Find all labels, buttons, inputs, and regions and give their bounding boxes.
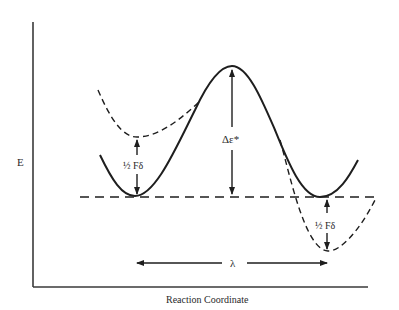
barrier-label: Δε* xyxy=(222,133,239,145)
right-half-f-delta-label: ½ Fδ xyxy=(315,220,336,231)
y-axis-label: E xyxy=(17,156,24,168)
lambda-label: λ xyxy=(230,257,236,269)
adiabatic-surface xyxy=(100,66,358,197)
left-half-f-delta-label: ½ Fδ xyxy=(123,160,144,171)
axes xyxy=(33,22,368,287)
x-axis-label: Reaction Coordinate xyxy=(166,294,249,305)
energy-diagram: E Reaction Coordinate ½ Fδ Δε* ½ Fδ λ xyxy=(0,0,399,310)
